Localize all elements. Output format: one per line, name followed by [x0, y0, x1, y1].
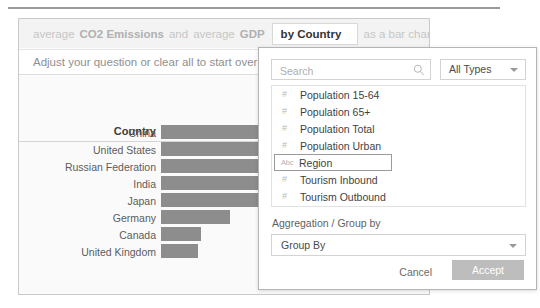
aggregation-value: Group By — [281, 239, 325, 251]
bar-category-label: Japan — [19, 195, 156, 207]
field-name: Population 15-64 — [300, 89, 379, 101]
bar — [161, 244, 198, 258]
text-type-icon: Abc — [281, 154, 299, 171]
number-type-icon: # — [282, 171, 300, 188]
question-token-0[interactable]: average — [33, 28, 75, 40]
field-list-item[interactable]: #Population 15-64 — [272, 86, 525, 103]
aggregation-label: Aggregation / Group by — [272, 217, 381, 229]
modal-search-row: All Types — [271, 59, 526, 80]
number-type-icon: # — [282, 86, 300, 103]
question-token-1[interactable]: CO2 Emissions — [80, 28, 164, 40]
search-icon — [413, 64, 425, 76]
number-type-icon: # — [282, 103, 300, 120]
chevron-down-icon — [509, 244, 517, 248]
top-divider — [8, 7, 500, 9]
bar — [161, 210, 230, 224]
field-list-item[interactable]: #Tourism Outbound — [272, 188, 525, 205]
field-name: Region — [299, 157, 332, 169]
number-type-icon: # — [282, 137, 300, 154]
bar-category-label: Germany — [19, 212, 156, 224]
search-input[interactable] — [278, 60, 410, 81]
bar-category-label: United Kingdom — [19, 246, 156, 258]
field-name: Tourism Inbound — [300, 174, 378, 186]
by-country-chip[interactable]: by Country — [272, 23, 358, 45]
field-list-item[interactable]: #Tourism Inbound — [272, 171, 525, 188]
bar-category-label: United States — [19, 144, 156, 156]
field-list-item[interactable]: #Population 65+ — [272, 103, 525, 120]
number-type-icon: # — [282, 120, 300, 137]
field-name: Tourism Outbound — [300, 191, 386, 203]
bar-category-label: China — [19, 127, 156, 139]
bar — [161, 193, 270, 207]
field-name: Population Urban — [300, 140, 381, 152]
field-list-item[interactable]: #Population Total — [272, 120, 525, 137]
field-name: Population Total — [300, 123, 375, 135]
field-list-item[interactable]: AbcRegion — [274, 154, 392, 171]
cancel-button[interactable]: Cancel — [391, 262, 440, 282]
field-name: Population 65+ — [300, 106, 370, 118]
field-list[interactable]: #Population 15-64#Population 65+#Populat… — [271, 85, 526, 207]
bar-category-label: Canada — [19, 229, 156, 241]
question-trailing-text[interactable]: as a bar chart — [364, 28, 430, 40]
bar-category-label: Russian Federation — [19, 161, 156, 173]
chevron-down-icon — [510, 68, 518, 72]
aggregation-select[interactable]: Group By — [271, 234, 526, 256]
field-picker-modal: All Types #Population 15-64#Population 6… — [258, 47, 537, 290]
accept-button[interactable]: Accept — [452, 260, 524, 280]
type-filter-value: All Types — [449, 63, 491, 75]
field-list-item[interactable]: #Population Urban — [272, 137, 525, 154]
type-filter-select[interactable]: All Types — [440, 59, 526, 80]
question-bar[interactable]: average CO2 Emissions and average GDP by… — [19, 19, 429, 48]
bar — [161, 227, 201, 241]
number-type-icon: # — [282, 188, 300, 205]
question-token-2: and — [169, 28, 188, 40]
bar-category-label: India — [19, 178, 156, 190]
adjust-question-text: Adjust your question or clear all to sta… — [33, 56, 257, 68]
search-field[interactable] — [271, 59, 431, 80]
question-token-4[interactable]: GDP — [240, 28, 265, 40]
question-token-3[interactable]: average — [193, 28, 235, 40]
